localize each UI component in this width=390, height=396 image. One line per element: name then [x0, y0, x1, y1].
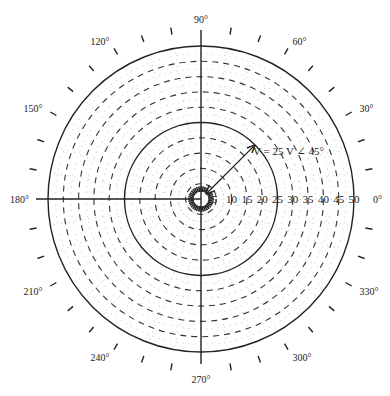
- phasor-shaft: [206, 145, 255, 194]
- radial-label-20: 20: [257, 193, 269, 205]
- angle-label-60: 60°: [293, 36, 307, 47]
- angle-label-30: 30°: [359, 103, 373, 114]
- angle-label-240: 240°: [91, 352, 110, 363]
- phasor-label: V = 25 V ∠ 45°: [253, 145, 324, 157]
- angle-label-270: 270°: [192, 374, 211, 385]
- radial-label-40: 40: [318, 193, 330, 205]
- axes: [36, 30, 201, 364]
- radial-label-15: 15: [241, 193, 253, 205]
- angle-label-120: 120°: [91, 36, 110, 47]
- radial-label-35: 35: [303, 193, 315, 205]
- radial-label-50: 50: [349, 193, 361, 205]
- polar-diagram: 5101520253035404550 0°30°60°90°120°150°1…: [0, 0, 390, 396]
- angle-label-300: 300°: [293, 352, 312, 363]
- radial-label-45: 45: [333, 193, 345, 205]
- radial-label-5: 5: [212, 193, 218, 205]
- angle-label-210: 210°: [24, 286, 43, 297]
- angle-label-180: 180°: [10, 194, 29, 205]
- angle-label-330: 330°: [359, 286, 378, 297]
- radial-label-25: 25: [272, 193, 284, 205]
- angle-label-0: 0°: [373, 194, 382, 205]
- angle-label-90: 90°: [194, 14, 208, 25]
- radial-label-10: 10: [226, 193, 238, 205]
- radial-scale-labels: 5101520253035404550: [212, 193, 360, 205]
- phasor-arrow: [206, 145, 255, 194]
- angle-label-150: 150°: [24, 103, 43, 114]
- radial-label-30: 30: [287, 193, 299, 205]
